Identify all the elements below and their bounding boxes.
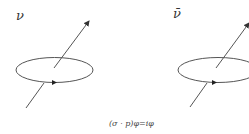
rotation-loop-left [16,58,93,83]
helicity-equation: (σ · p)φ=iφ [109,119,154,128]
antineutrino-figure [178,23,249,107]
spin-arrow-lower-right [190,83,207,107]
helicity-diagram [0,0,249,134]
spin-arrow-lower-left [26,83,44,108]
rotation-direction-arrow-left [52,80,57,85]
spin-arrow-upper-right [216,23,249,68]
neutrino-figure [16,21,93,108]
rotation-direction-arrow-right [212,80,217,85]
spin-arrow-upper-left [54,21,89,68]
rotation-loop-right [178,58,249,83]
